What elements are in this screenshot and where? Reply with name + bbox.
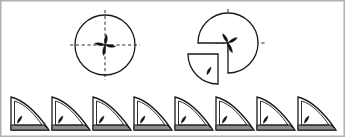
wedge-base-strip xyxy=(93,125,131,130)
wedge-base-strip xyxy=(298,125,336,130)
figure-svg xyxy=(0,0,345,137)
wedge-base-strip xyxy=(175,125,213,130)
wedge-base-strip xyxy=(134,125,172,130)
wedge-base-strip xyxy=(11,125,49,130)
wedge-base-strip xyxy=(257,125,295,130)
illustration-canvas xyxy=(0,0,345,137)
wedge-base-strip xyxy=(52,125,90,130)
wedge-base-strip xyxy=(216,125,254,130)
